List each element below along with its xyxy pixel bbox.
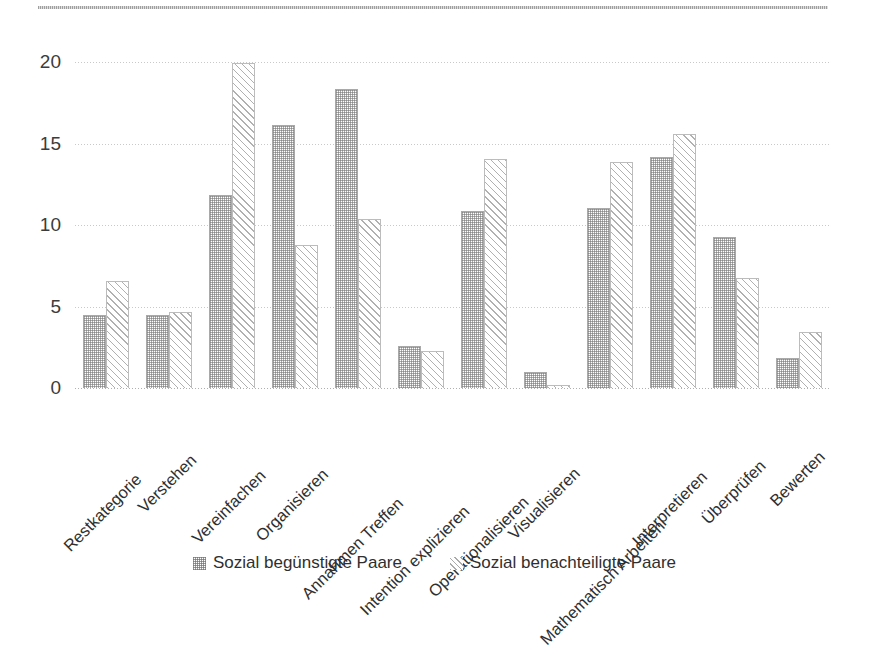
bar-benachteiligte [232, 63, 255, 388]
bar-benachteiligte [421, 351, 444, 388]
bar-group [327, 62, 390, 388]
bar-beguenstigte [461, 211, 484, 388]
bar-group [201, 62, 264, 388]
bar-beguenstigte [650, 157, 673, 388]
x-label-slot: Verstehen [138, 388, 201, 538]
chart-legend: Sozial begünstigte PaareSozial benachtei… [0, 553, 869, 573]
bar-benachteiligte [295, 245, 318, 388]
bar-benachteiligte [799, 332, 822, 388]
bar-beguenstigte [146, 315, 169, 388]
bar-group [453, 62, 516, 388]
bar-beguenstigte [209, 195, 232, 388]
bar-beguenstigte [587, 208, 610, 388]
y-tick-label-20: 20 [40, 51, 61, 73]
y-tick-label-5: 5 [50, 296, 61, 318]
bar-benachteiligte [169, 312, 192, 388]
plot-area: 05101520 [75, 62, 830, 388]
bar-beguenstigte [398, 346, 421, 388]
diagonal-hatch-swatch [450, 557, 463, 570]
bar-benachteiligte [736, 278, 759, 388]
x-label-slot: Überprüfen [704, 388, 767, 538]
x-label-slot: Organisieren [264, 388, 327, 538]
y-tick-label-0: 0 [50, 377, 61, 399]
legend-item: Sozial benachteiligte Paare [450, 553, 676, 573]
bar-beguenstigte [713, 237, 736, 388]
bar-benachteiligte [484, 159, 507, 388]
bar-group [390, 62, 453, 388]
bar-benachteiligte [610, 162, 633, 388]
bar-beguenstigte [83, 315, 106, 388]
x-label-slot: Interpretieren [641, 388, 704, 538]
legend-item: Sozial begünstigte Paare [193, 553, 402, 573]
x-axis-category-label: Bewerten [815, 398, 869, 461]
x-label-slot: Bewerten [767, 388, 830, 538]
bar-group [138, 62, 201, 388]
bar-group [75, 62, 138, 388]
legend-item-label: Sozial begünstigte Paare [213, 553, 402, 573]
x-label-slot: Visualisieren [515, 388, 578, 538]
x-label-slot: Intention explizieren [390, 388, 453, 538]
bar-beguenstigte [776, 358, 799, 388]
x-label-slot: Annahmen Treffen [327, 388, 390, 538]
x-axis-category-text: Organisieren [252, 465, 332, 545]
bar-benachteiligte [673, 134, 696, 388]
dotted-checker-swatch [193, 557, 206, 570]
bar-group [641, 62, 704, 388]
top-rule-artifact [38, 6, 828, 9]
x-axis-labels: RestkategorieVerstehenVereinfachenOrgani… [75, 388, 830, 538]
x-axis-category-text: Visualisieren [504, 464, 583, 543]
bar-beguenstigte [524, 372, 547, 388]
x-label-slot: Restkategorie [75, 388, 138, 538]
bar-benachteiligte [358, 219, 381, 388]
bar-groups [75, 62, 830, 388]
x-axis-category-text: Restkategorie [60, 470, 145, 555]
legend-item-label: Sozial benachteiligte Paare [470, 553, 676, 573]
x-label-slot: Operationalisieren [453, 388, 516, 538]
y-tick-label-10: 10 [40, 214, 61, 236]
bar-group [767, 62, 830, 388]
bar-beguenstigte [335, 89, 358, 388]
bar-group [578, 62, 641, 388]
bar-group [704, 62, 767, 388]
bar-group [515, 62, 578, 388]
x-axis-category-text: Verstehen [135, 451, 201, 517]
x-label-slot: Mathematisch Arbeiten [578, 388, 641, 538]
x-axis-category-text: Bewerten [766, 447, 829, 510]
bar-group [264, 62, 327, 388]
x-axis-category-text: Überprüfen [697, 456, 769, 528]
x-axis-category-text: Interpretieren [628, 467, 711, 550]
bar-benachteiligte [106, 281, 129, 388]
x-label-slot: Vereinfachen [201, 388, 264, 538]
bar-beguenstigte [272, 125, 295, 388]
y-tick-label-15: 15 [40, 133, 61, 155]
